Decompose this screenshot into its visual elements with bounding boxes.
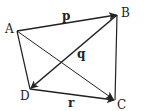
label-p: p	[62, 9, 70, 23]
label-B: B	[121, 6, 130, 20]
segment-AD	[17, 31, 30, 89]
vector-diagram: A B C D p q r	[0, 0, 144, 111]
label-r: r	[68, 96, 75, 110]
label-D: D	[20, 89, 30, 103]
label-q: q	[77, 47, 86, 61]
label-C: C	[117, 98, 126, 111]
segment-BC	[115, 15, 117, 100]
label-A: A	[4, 22, 14, 36]
diagram-canvas: A B C D p q r	[0, 0, 144, 111]
